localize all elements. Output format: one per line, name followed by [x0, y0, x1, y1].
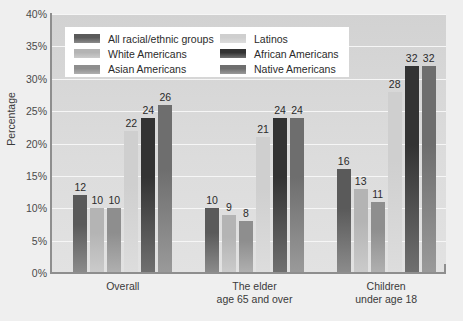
bar-value-label: 11: [372, 188, 383, 200]
legend-item[interactable]: Latinos: [217, 31, 349, 46]
x-axis-group-label: Overall: [106, 280, 139, 293]
bar: [107, 208, 121, 273]
bar: [222, 215, 236, 273]
gridline: [51, 14, 446, 15]
legend-item[interactable]: All racial/ethnic groups: [65, 31, 217, 46]
bar-value-label: 16: [338, 155, 350, 167]
bar-value-label: 9: [226, 201, 232, 213]
bar-value-label: 10: [206, 194, 218, 206]
bar-value-label: 10: [108, 194, 120, 206]
bar: [239, 221, 253, 273]
bar: [141, 118, 155, 273]
y-axis-tick-label: 15%: [3, 170, 47, 182]
bar-value-label: 24: [291, 104, 303, 116]
bar-value-label: 24: [274, 104, 286, 116]
x-axis-line: [50, 272, 446, 274]
bar-value-label: 32: [406, 52, 418, 64]
x-axis-group-label-line: under age 18: [355, 293, 417, 306]
bar-value-label: 32: [423, 52, 435, 64]
legend-item[interactable]: Asian Americans: [65, 62, 217, 77]
y-axis-tick-label: 10%: [3, 202, 47, 214]
bar: [158, 105, 172, 273]
chart-legend: All racial/ethnic groupsLatinosWhite Ame…: [65, 27, 349, 77]
x-axis-group-label-line: age 65 and over: [217, 293, 293, 306]
x-axis-group-label-line: The elder: [217, 280, 293, 293]
legend-swatch-icon: [220, 65, 246, 74]
x-axis-group-label: The elderage 65 and over: [217, 280, 293, 306]
bar-value-label: 21: [257, 123, 269, 135]
x-axis-group-label: Childrenunder age 18: [355, 280, 417, 306]
bar: [256, 137, 270, 273]
bar-value-label: 28: [389, 78, 401, 90]
gridline: [51, 79, 446, 80]
bar: [73, 195, 87, 273]
legend-swatch-icon: [74, 34, 100, 43]
bar: [405, 66, 419, 273]
y-axis-tick-label: 0%: [3, 267, 47, 279]
bar-value-label: 12: [74, 181, 86, 193]
legend-swatch-icon: [74, 65, 100, 74]
legend-item[interactable]: White Americans: [65, 46, 217, 61]
bar: [371, 202, 385, 273]
bar: [124, 131, 138, 273]
bar: [388, 92, 402, 273]
bar: [205, 208, 219, 273]
bar-value-label: 8: [243, 207, 249, 219]
legend-swatch-icon: [220, 34, 246, 43]
x-axis-group-label-line: Children: [355, 280, 417, 293]
legend-item[interactable]: African Americans: [217, 46, 349, 61]
bar: [290, 118, 304, 273]
legend-label: All racial/ethnic groups: [108, 33, 214, 45]
legend-label: White Americans: [108, 48, 187, 60]
legend-swatch-icon: [74, 49, 100, 58]
bar: [273, 118, 287, 273]
bar-value-label: 26: [159, 91, 171, 103]
x-axis-end-tick: [444, 264, 446, 273]
x-axis-group-label-line: Overall: [106, 280, 139, 293]
bar: [422, 66, 436, 273]
legend-label: African Americans: [254, 48, 339, 60]
legend-item[interactable]: Native Americans: [217, 62, 349, 77]
legend-label: Latinos: [254, 33, 288, 45]
y-axis-line: [50, 13, 52, 274]
bar-value-label: 10: [91, 194, 103, 206]
y-axis-tick-label: 5%: [3, 235, 47, 247]
bar-chart: 40%35%30%25%20%15%10%5%0% Percentage 121…: [0, 0, 463, 321]
legend-label: Native Americans: [254, 63, 336, 75]
bar-value-label: 13: [355, 175, 367, 187]
bar: [90, 208, 104, 273]
bar-value-label: 24: [142, 104, 154, 116]
legend-label: Asian Americans: [108, 63, 186, 75]
y-axis-title: Percentage: [5, 69, 17, 169]
y-axis-tick-label: 40%: [3, 8, 47, 20]
bar-value-label: 22: [125, 117, 137, 129]
bar: [354, 189, 368, 273]
y-axis-tick-label: 35%: [3, 40, 47, 52]
legend-swatch-icon: [220, 49, 246, 58]
bar: [337, 169, 351, 273]
